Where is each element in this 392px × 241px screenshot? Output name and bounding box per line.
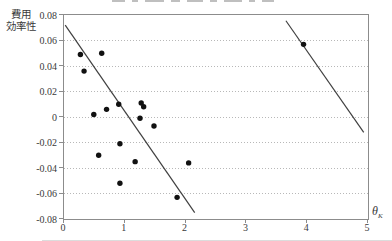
scatter-chart-figure: 費用 効率性 0.080.060.040.020-0.02-0.04-0.06-… — [0, 0, 392, 241]
data-point — [96, 153, 101, 158]
data-point — [104, 107, 109, 112]
x-tick-mark — [245, 219, 246, 223]
x-tick-label: 1 — [115, 222, 133, 233]
x-tick-mark — [63, 219, 64, 223]
y-tick-mark — [59, 91, 63, 92]
y-tick-mark — [59, 65, 63, 66]
data-point — [116, 102, 121, 107]
y-tick-label: -0.04 — [0, 163, 57, 174]
data-point — [117, 181, 122, 186]
x-tick-label: 0 — [54, 222, 72, 233]
clipped-chart-title — [112, 0, 342, 3]
data-point — [91, 112, 96, 117]
trend-line — [286, 21, 364, 133]
data-point — [78, 52, 83, 57]
data-point — [151, 123, 156, 128]
x-tick-mark — [306, 219, 307, 223]
data-point — [141, 104, 146, 109]
data-point — [132, 159, 137, 164]
data-point — [174, 195, 179, 200]
y-axis-title-line2: 効率性 — [2, 21, 40, 33]
y-tick-mark — [59, 142, 63, 143]
data-point — [186, 160, 191, 165]
y-tick-label: -0.08 — [0, 214, 57, 225]
theta-subscript: K — [378, 212, 383, 220]
x-tick-mark — [185, 219, 186, 223]
data-point — [99, 51, 104, 56]
x-tick-mark — [124, 219, 125, 223]
y-tick-mark — [59, 40, 63, 41]
data-point — [81, 68, 86, 73]
x-tick-label: 4 — [297, 222, 315, 233]
data-point — [301, 42, 306, 47]
y-tick-mark — [59, 116, 63, 117]
y-tick-label: 0.06 — [0, 35, 57, 46]
plot-canvas — [64, 15, 368, 219]
trend-line — [65, 25, 195, 212]
y-tick-label: 0.02 — [0, 86, 57, 97]
x-tick-label: 3 — [236, 222, 254, 233]
y-tick-mark — [59, 14, 63, 15]
data-point — [117, 141, 122, 146]
y-tick-label: 0.08 — [0, 10, 57, 21]
y-tick-label: 0 — [0, 112, 57, 123]
y-tick-label: -0.06 — [0, 188, 57, 199]
y-tick-label: 0.04 — [0, 61, 57, 72]
y-tick-label: -0.02 — [0, 137, 57, 148]
x-axis-title: θK — [372, 204, 383, 220]
data-point — [137, 116, 142, 121]
plot-area — [63, 14, 369, 220]
y-tick-mark — [59, 167, 63, 168]
x-tick-label: 2 — [176, 222, 194, 233]
x-tick-mark — [367, 219, 368, 223]
x-tick-label: 5 — [358, 222, 376, 233]
y-tick-mark — [59, 193, 63, 194]
